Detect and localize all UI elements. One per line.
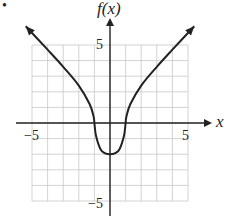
y-tick-label-max: 5 <box>96 37 103 52</box>
y-axis-label: f(x) <box>97 0 121 18</box>
x-tick-label-max: 5 <box>182 128 189 143</box>
x-axis-label: x <box>215 112 224 131</box>
axes <box>16 20 210 216</box>
y-tick-label-min: −5 <box>88 196 103 211</box>
function-graph: • f(x) x −5 5 5 −5 <box>0 0 229 221</box>
bullet-marker: • <box>2 0 7 13</box>
x-tick-label-min: −5 <box>24 128 39 143</box>
